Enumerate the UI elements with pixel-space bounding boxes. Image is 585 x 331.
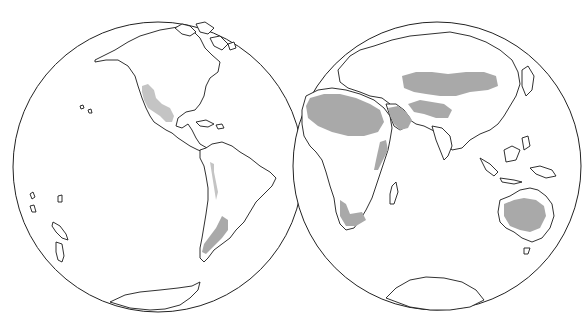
hawaii [88,109,92,113]
eastern-hemisphere [293,22,581,310]
hawaii [80,105,84,109]
pacific-island [58,195,62,202]
western-hemisphere [13,22,303,312]
hispaniola [216,124,224,129]
greenland-tip [228,42,236,50]
world-map [0,0,585,331]
